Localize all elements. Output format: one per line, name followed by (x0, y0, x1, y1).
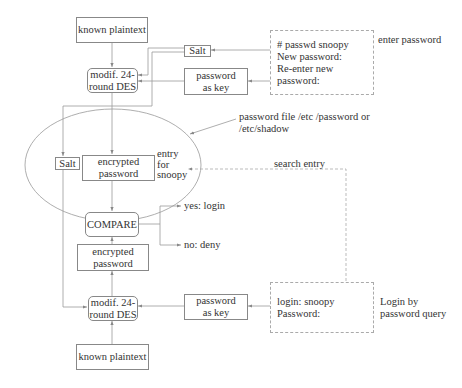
passwd-terminal-box: # passwd snoopy New password: Re-enter n… (270, 30, 374, 95)
password-as-key-line2: as key (203, 82, 230, 94)
terminal-line-3: Re-enter new password: (277, 63, 373, 87)
login-terminal-box: login: snoopy Password: (270, 282, 374, 333)
known-plaintext-box-bottom: known plaintext (76, 344, 149, 370)
known-plaintext-label: known plaintext (78, 24, 146, 36)
terminal-line-2: New password: (277, 51, 342, 63)
no-deny-label: no: deny (184, 239, 220, 251)
compare-label: COMPARE (87, 219, 137, 231)
caption-line2: /etc/shadow (239, 123, 370, 135)
salt-box-file: Salt (55, 157, 80, 170)
encrypted-line2: password (93, 258, 133, 270)
known-plaintext-box-top: known plaintext (76, 17, 148, 43)
caption-line2: password query (380, 308, 446, 320)
terminal-line-1: # passwd snoopy (277, 39, 349, 51)
des-label-line1: modif. 24- (91, 297, 135, 309)
connector-lines (0, 0, 462, 388)
search-entry-label: search entry (274, 158, 325, 170)
entry-line1: entry (157, 149, 187, 160)
password-as-key-line1: password (196, 295, 236, 307)
terminal-line-2: Password: (277, 308, 320, 320)
des-label-line1: modif. 24- (90, 69, 134, 81)
des-box-top: modif. 24- round DES (87, 68, 138, 93)
login-by-query-caption: Login by password query (380, 296, 446, 320)
password-file-caption: password file /etc /password or /etc/sha… (239, 111, 370, 135)
enter-password-caption: enter password (378, 34, 441, 46)
compare-box: COMPARE (85, 212, 139, 237)
known-plaintext-label: known plaintext (79, 351, 147, 363)
terminal-line-1: login: snoopy (277, 296, 334, 308)
caption-line1: Login by (380, 296, 446, 308)
encrypted-line1: encrypted (92, 246, 133, 258)
encrypted-password-box-file: encrypted password (82, 155, 155, 181)
encrypted-password-box-bottom: encrypted password (77, 244, 149, 271)
yes-login-label: yes: login (184, 200, 225, 212)
password-as-key-box-top: password as key (184, 68, 248, 95)
salt-box-top: Salt (184, 45, 211, 57)
salt-label: Salt (59, 158, 75, 170)
encrypted-line1: encrypted (98, 156, 139, 168)
password-as-key-line1: password (196, 70, 236, 82)
caption-line1: password file /etc /password or (239, 111, 370, 123)
des-label-line2: round DES (90, 309, 137, 321)
entry-line3: snoopy (157, 170, 187, 181)
encrypted-line2: password (99, 168, 139, 180)
password-as-key-line2: as key (203, 307, 230, 319)
entry-for-snoopy-label: entry for snoopy (157, 149, 187, 181)
salt-label: Salt (189, 45, 205, 57)
password-as-key-box-bottom: password as key (184, 294, 248, 320)
des-label-line2: round DES (89, 81, 136, 93)
des-box-bottom: modif. 24- round DES (88, 296, 138, 321)
